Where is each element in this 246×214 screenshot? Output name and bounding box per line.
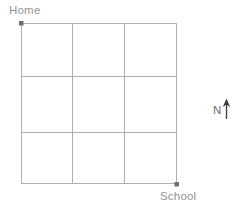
location-markers: [19, 21, 179, 187]
school-label: School: [160, 190, 196, 203]
grid-lines: [21, 23, 177, 184]
home-label: Home: [9, 4, 40, 17]
compass-north-letter: N: [213, 104, 222, 117]
map-graphics: [0, 0, 246, 214]
school-marker-dot: [175, 182, 180, 187]
compass-arrow-icon: [223, 99, 230, 120]
street-grid-map: Home School N: [0, 0, 246, 214]
home-marker-dot: [19, 21, 24, 26]
